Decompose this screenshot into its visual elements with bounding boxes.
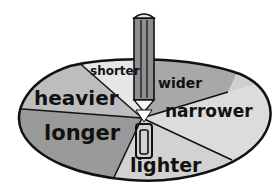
- spinner-illustration: shorter wider heavier narrower longer li…: [0, 0, 276, 194]
- segment-label-longer: longer: [44, 123, 120, 144]
- segment-label-shorter: shorter: [90, 65, 140, 77]
- segment-label-narrower: narrower: [165, 103, 253, 120]
- segment-label-heavier: heavier: [34, 88, 119, 108]
- segment-label-lighter: lighter: [130, 156, 202, 175]
- segment-label-wider: wider: [158, 76, 202, 90]
